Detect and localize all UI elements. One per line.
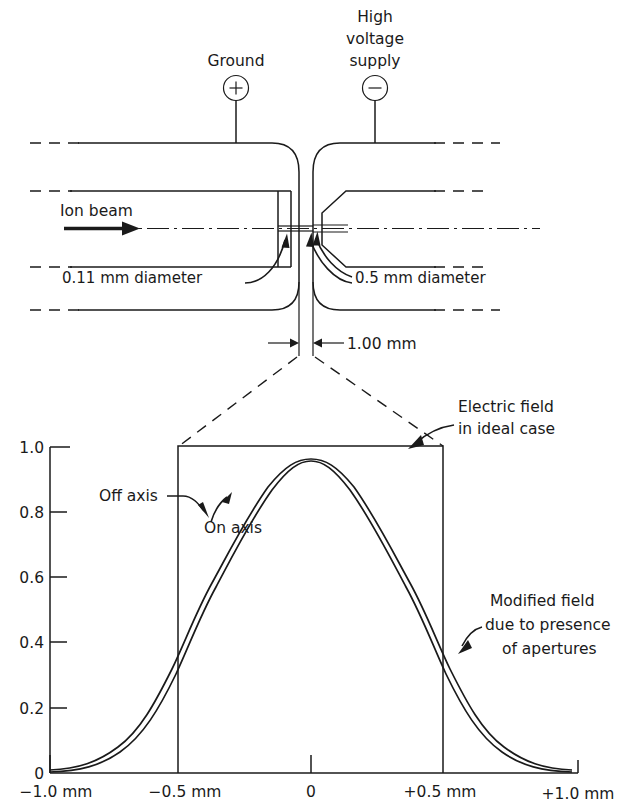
- y-tick-label-1-0: 1.0: [19, 439, 44, 457]
- x-tick-label-neg-1-0: −1.0 mm: [20, 783, 93, 801]
- x-tick-label-pos-1-0: +1.0 mm: [542, 785, 615, 803]
- figure-canvas: Ground High voltage supply: [0, 0, 632, 806]
- upper-diagram: Ground High voltage supply: [30, 8, 540, 446]
- ion-beam-arrow-icon: [64, 222, 140, 236]
- off-axis-leader: [167, 496, 204, 511]
- x-axis-ticks: [50, 755, 578, 773]
- annotation-ideal-field: Electric field in ideal case: [408, 398, 555, 449]
- on-axis-arrowhead: [222, 492, 232, 504]
- modified-field-label-line1: Modified field: [490, 592, 595, 610]
- y-tick-label-0-4: 0.4: [19, 634, 44, 652]
- modified-field-leader: [462, 627, 482, 646]
- x-axis-tick-labels: −1.0 mm −0.5 mm 0 +0.5 mm +1.0 mm: [20, 783, 615, 803]
- x-tick-label-neg-0-5: −0.5 mm: [149, 783, 222, 801]
- annotation-off-axis: Off axis: [99, 487, 209, 518]
- on-axis-label: On axis: [204, 519, 262, 537]
- minus-terminal-icon: [363, 76, 388, 101]
- left-aperture-diameter-label: 0.11 mm diameter: [62, 269, 203, 287]
- projection-line-right: [315, 357, 443, 446]
- ground-supply-label: Ground: [207, 52, 264, 70]
- annotation-on-axis: On axis: [204, 492, 262, 537]
- ideal-field-label-line1: Electric field: [458, 398, 554, 416]
- y-axis-ticks: [50, 447, 70, 708]
- hv-supply-label-line1: High: [357, 8, 393, 26]
- y-tick-label-0-6: 0.6: [19, 569, 44, 587]
- gap-dimension-label: 1.00 mm: [347, 335, 417, 353]
- series-ideal-field-rect: [178, 446, 443, 773]
- off-axis-label: Off axis: [99, 487, 158, 505]
- field-profile-plot: 1.0 0.8 0.6 0.4 0.2 0 −1.0 mm −0.5 mm 0 …: [19, 398, 614, 803]
- plus-terminal-icon: [224, 76, 249, 101]
- ideal-field-label-line2: in ideal case: [458, 420, 555, 438]
- figure-root: Ground High voltage supply: [0, 0, 632, 806]
- y-axis-tick-labels: 1.0 0.8 0.6 0.4 0.2 0: [19, 439, 44, 783]
- y-tick-label-0-2: 0.2: [19, 700, 44, 718]
- right-aperture-diameter-label: 0.5 mm diameter: [355, 269, 486, 287]
- y-tick-label-0-8: 0.8: [19, 504, 44, 522]
- off-axis-arrowhead: [198, 502, 209, 518]
- series-off-axis-curve: [50, 459, 572, 770]
- hv-supply-label-line2: voltage: [346, 30, 404, 48]
- ion-beam-label: Ion beam: [60, 202, 133, 220]
- gap-dimension: 1.00 mm: [268, 282, 417, 356]
- modified-field-label-line3: of apertures: [502, 640, 597, 658]
- left-aperture-leader: [245, 234, 290, 284]
- x-tick-label-zero: 0: [306, 783, 316, 801]
- x-tick-label-pos-0-5: +0.5 mm: [404, 783, 477, 801]
- projection-line-left: [179, 357, 297, 446]
- hv-supply-label-line3: supply: [349, 52, 400, 70]
- modified-field-label-line2: due to presence: [485, 616, 611, 634]
- ideal-field-arrowhead: [408, 435, 424, 449]
- y-tick-label-0: 0: [34, 765, 44, 783]
- annotation-modified-field: Modified field due to presence of apertu…: [458, 592, 611, 658]
